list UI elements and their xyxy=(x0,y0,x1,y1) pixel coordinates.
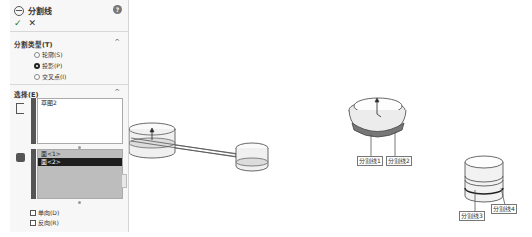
radio-label: 轮廓(S) xyxy=(42,50,63,59)
panel-collapse-tab[interactable] xyxy=(121,174,127,188)
collapse-selection-icon[interactable]: ^ xyxy=(114,88,120,96)
checkbox-icon[interactable] xyxy=(30,220,36,226)
split-line-callout-4[interactable]: 分割线4 xyxy=(491,204,517,214)
graphics-viewport[interactable]: 分割线1 分割线2 分割线3 分割线4 xyxy=(129,0,532,237)
radio-projection[interactable]: 投影(P) xyxy=(34,61,62,70)
checkbox-icon[interactable] xyxy=(30,210,36,216)
panel-title: 分割线 xyxy=(28,5,52,16)
model-dome xyxy=(349,98,406,156)
property-manager-panel: 分割线 ? ✓ ✕ 分割类型(T) ^ 轮廓(S) 投影(P) 交叉点(I) 选… xyxy=(10,0,129,232)
radio-label: 投影(P) xyxy=(42,61,62,70)
resize-handle[interactable] xyxy=(78,201,81,204)
radio-label: 交叉点(I) xyxy=(42,72,66,81)
list-item-selected[interactable]: 面<2> xyxy=(38,158,122,166)
list-item[interactable]: 草图2 xyxy=(38,99,122,107)
checkbox-label: 单向(D) xyxy=(38,208,59,217)
checkbox-label: 反向(R) xyxy=(38,218,59,227)
help-icon[interactable]: ? xyxy=(113,5,122,14)
panel-header: 分割线 xyxy=(14,5,52,16)
checkbox-reverse[interactable]: 反向(R) xyxy=(30,218,59,227)
collapse-split-type-icon[interactable]: ^ xyxy=(114,38,120,46)
face-icon xyxy=(16,153,25,162)
radio-intersection[interactable]: 交叉点(I) xyxy=(34,72,66,81)
list-item[interactable]: 面<1> xyxy=(38,150,122,158)
checkbox-single-direction[interactable]: 单向(D) xyxy=(30,208,59,217)
split-type-section-title[interactable]: 分割类型(T) xyxy=(14,39,52,49)
model-projection-setup xyxy=(129,123,268,171)
radio-icon[interactable] xyxy=(34,52,40,58)
face-selection-list[interactable]: 面<1> 面<2> xyxy=(37,149,123,199)
divider xyxy=(10,84,128,85)
split-line-callout-2[interactable]: 分割线2 xyxy=(386,156,412,166)
sketch-icon xyxy=(16,103,24,114)
radio-silhouette[interactable]: 轮廓(S) xyxy=(34,50,63,59)
split-line-icon xyxy=(14,6,24,16)
ok-button[interactable]: ✓ xyxy=(14,18,22,28)
split-line-callout-1[interactable]: 分割线1 xyxy=(357,156,383,166)
radio-icon[interactable] xyxy=(34,74,40,80)
model-drawing xyxy=(129,0,532,237)
cancel-button[interactable]: ✕ xyxy=(29,18,37,28)
sketch-selection-list[interactable]: 草图2 xyxy=(37,98,123,144)
action-row: ✓ ✕ xyxy=(14,18,36,28)
divider xyxy=(10,31,128,32)
split-line-callout-3[interactable]: 分割线3 xyxy=(459,211,485,221)
radio-icon[interactable] xyxy=(34,63,40,69)
sketch-list-indicator xyxy=(31,98,36,144)
face-list-indicator xyxy=(31,149,36,199)
